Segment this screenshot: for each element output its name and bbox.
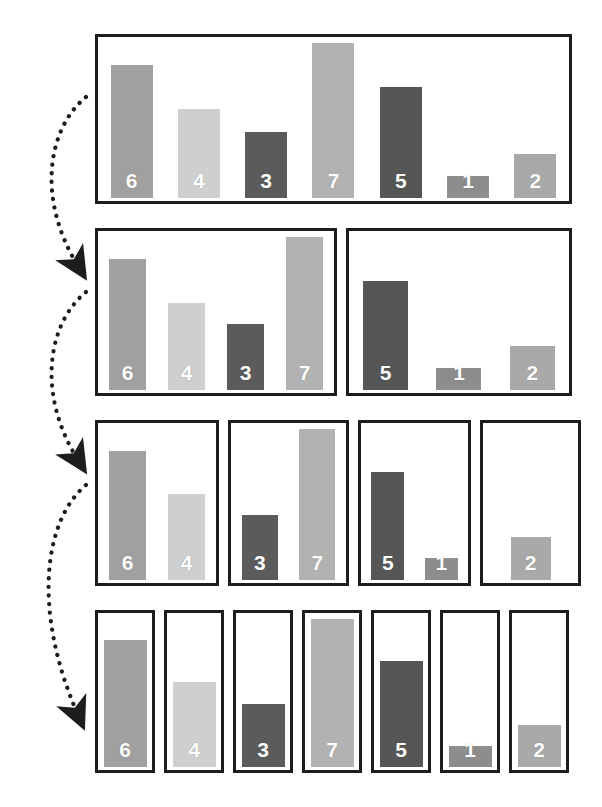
bar-label: 4 — [181, 362, 193, 390]
bar-2[interactable]: 2 — [514, 154, 556, 198]
bar-6[interactable]: 6 — [109, 451, 146, 580]
bar-slot: 6 — [98, 619, 152, 767]
bar-slot: 3 — [236, 619, 290, 767]
bar-6[interactable]: 6 — [109, 259, 146, 390]
bar-slot: 1 — [443, 619, 497, 767]
bar-4[interactable]: 4 — [168, 494, 205, 580]
bar-slot: 6 — [98, 237, 157, 390]
bar-label: 6 — [126, 170, 138, 198]
bar-slot: 4 — [165, 43, 232, 198]
bar-label: 5 — [395, 739, 407, 767]
bar-label: 5 — [395, 170, 407, 198]
bar-slot: 5 — [374, 619, 428, 767]
bar-2[interactable]: 2 — [511, 537, 551, 580]
bar-label: 2 — [526, 362, 538, 390]
bar-slot: 3 — [216, 237, 275, 390]
bar-6[interactable]: 6 — [104, 640, 147, 767]
bar-slot: 6 — [98, 43, 165, 198]
bar-label: 3 — [254, 552, 266, 580]
level-0: 6437512 — [95, 34, 572, 204]
bar-slot: 5 — [361, 429, 415, 580]
bar-label: 4 — [188, 739, 200, 767]
bar-slot: 4 — [157, 237, 216, 390]
bar-label: 7 — [299, 362, 311, 390]
bar-slot: 2 — [483, 429, 578, 580]
group-level1-1[interactable]: 512 — [346, 228, 572, 396]
bar-5[interactable]: 5 — [380, 661, 423, 767]
split-arrow-1 — [52, 97, 86, 266]
bar-slot: 1 — [422, 237, 495, 390]
bar-slot: 3 — [231, 429, 289, 580]
bar-label: 5 — [380, 362, 392, 390]
bar-label: 6 — [122, 552, 134, 580]
bar-slot: 5 — [349, 237, 422, 390]
bar-label: 6 — [122, 362, 134, 390]
bar-slot: 7 — [275, 237, 334, 390]
bar-5[interactable]: 5 — [380, 87, 422, 198]
bar-4[interactable]: 4 — [178, 109, 220, 198]
group-level3-3[interactable]: 7 — [302, 610, 362, 773]
bar-1[interactable]: 1 — [447, 176, 489, 198]
bar-3[interactable]: 3 — [242, 515, 278, 580]
group-level0-0[interactable]: 6437512 — [95, 34, 572, 204]
bar-7[interactable]: 7 — [312, 43, 354, 198]
bar-slot: 1 — [434, 43, 501, 198]
bar-label: 4 — [181, 552, 193, 580]
level-2: 64 37 51 2 — [95, 420, 572, 586]
bar-2[interactable]: 2 — [518, 725, 561, 767]
bar-label: 7 — [311, 552, 323, 580]
bar-label: 1 — [453, 362, 465, 390]
bar-3[interactable]: 3 — [245, 132, 287, 198]
bar-label: 6 — [119, 739, 131, 767]
figure-canvas: 6437512 6437 512 64 37 51 2 6 4 3 7 5 1 … — [0, 0, 602, 807]
group-level3-2[interactable]: 3 — [233, 610, 293, 773]
bar-slot: 7 — [305, 619, 359, 767]
bar-label: 1 — [435, 552, 447, 580]
bar-5[interactable]: 5 — [371, 472, 404, 580]
bar-1[interactable]: 1 — [436, 368, 481, 390]
bar-6[interactable]: 6 — [111, 65, 153, 198]
group-level2-3[interactable]: 2 — [480, 420, 581, 586]
group-level3-4[interactable]: 5 — [371, 610, 431, 773]
group-level3-1[interactable]: 4 — [164, 610, 224, 773]
group-level3-6[interactable]: 2 — [509, 610, 569, 773]
bar-3[interactable]: 3 — [242, 704, 285, 767]
bar-label: 2 — [525, 552, 537, 580]
bar-label: 1 — [462, 170, 474, 198]
bar-label: 3 — [240, 362, 252, 390]
bar-slot: 1 — [415, 429, 469, 580]
bar-label: 4 — [193, 170, 205, 198]
group-level2-0[interactable]: 64 — [95, 420, 219, 586]
bar-slot: 7 — [289, 429, 347, 580]
bar-label: 1 — [464, 739, 476, 767]
level-1: 6437 512 — [95, 228, 572, 396]
bar-2[interactable]: 2 — [510, 346, 555, 390]
bar-label: 3 — [257, 739, 269, 767]
bar-7[interactable]: 7 — [286, 237, 323, 390]
group-level2-1[interactable]: 37 — [228, 420, 349, 586]
bar-slot: 6 — [98, 429, 157, 580]
bar-1[interactable]: 1 — [449, 746, 492, 767]
bar-label: 2 — [529, 170, 541, 198]
bar-slot: 5 — [367, 43, 434, 198]
bar-slot: 4 — [167, 619, 221, 767]
split-arrow-2 — [52, 292, 86, 460]
bar-slot: 3 — [233, 43, 300, 198]
bar-label: 5 — [382, 552, 394, 580]
group-level3-5[interactable]: 1 — [440, 610, 500, 773]
bar-slot: 7 — [300, 43, 367, 198]
bar-7[interactable]: 7 — [299, 429, 335, 580]
bar-slot: 2 — [502, 43, 569, 198]
bar-label: 7 — [326, 739, 338, 767]
group-level2-2[interactable]: 51 — [358, 420, 471, 586]
level-3: 6 4 3 7 5 1 2 — [95, 610, 572, 773]
group-level1-0[interactable]: 6437 — [95, 228, 337, 396]
bar-4[interactable]: 4 — [168, 303, 205, 390]
bar-7[interactable]: 7 — [311, 619, 354, 767]
split-arrow-3 — [49, 485, 86, 715]
bar-5[interactable]: 5 — [363, 281, 408, 390]
bar-1[interactable]: 1 — [425, 558, 458, 580]
bar-4[interactable]: 4 — [173, 682, 216, 767]
group-level3-0[interactable]: 6 — [95, 610, 155, 773]
bar-3[interactable]: 3 — [227, 324, 264, 390]
